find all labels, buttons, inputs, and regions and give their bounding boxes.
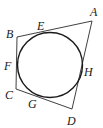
label-c: C bbox=[5, 88, 14, 102]
inscribed-circle bbox=[18, 33, 83, 98]
label-a: A bbox=[89, 5, 98, 19]
label-g: G bbox=[28, 97, 37, 111]
label-f: F bbox=[3, 59, 12, 73]
label-h: H bbox=[83, 65, 94, 79]
label-b: B bbox=[6, 27, 14, 41]
inscribed-circle-diagram: A B E F H C G D bbox=[0, 0, 103, 128]
quadrilateral-abcd bbox=[16, 21, 92, 109]
label-d: D bbox=[66, 114, 76, 128]
label-e: E bbox=[36, 19, 45, 33]
